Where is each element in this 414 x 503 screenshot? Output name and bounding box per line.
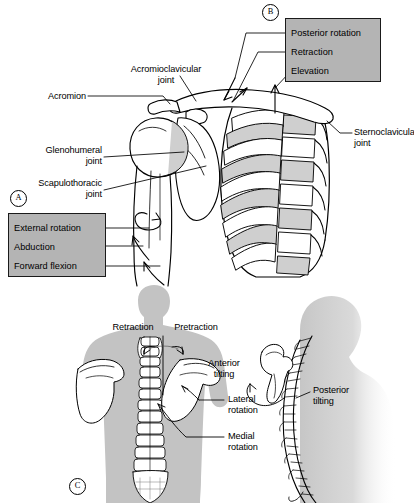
label-glenohumeral-joint: Glenohumeral joint: [20, 145, 102, 166]
panel-a-label-forward-flexion: Forward flexion: [14, 261, 77, 272]
panel-b-label-retraction: Retraction: [291, 47, 333, 58]
panel-c-marker: C: [69, 478, 86, 495]
label-acromioclavicular-joint: Acromioclavicular joint: [118, 64, 214, 85]
panel-a-label-external-rotation: External rotation: [14, 223, 81, 234]
label-medial-rotation: Medial rotation: [228, 431, 284, 452]
label-scapulothoracic-joint: Scapulothoracic joint: [14, 178, 102, 199]
label-pretraction-c: Pretraction: [166, 322, 226, 333]
label-sternoclavicular-joint: Sternoclavicular joint: [354, 127, 414, 148]
label-retraction-c: Retraction: [104, 322, 162, 333]
panel-b-marker: B: [262, 4, 279, 21]
label-acromion: Acromion: [14, 91, 86, 102]
panel-b-label-elevation: Elevation: [291, 66, 329, 77]
label-posterior-tilting: Posterior tilting: [313, 385, 375, 406]
panel-b-label-posterior-rotation: Posterior rotation: [291, 28, 361, 39]
anatomy-figure: Posterior rotation Retraction Elevation …: [0, 0, 414, 503]
label-lateral-rotation: Lateral rotation: [228, 394, 284, 415]
label-anterior-tilting: Anterior tilting: [196, 358, 252, 379]
panel-a-label-abduction: Abduction: [14, 242, 55, 253]
